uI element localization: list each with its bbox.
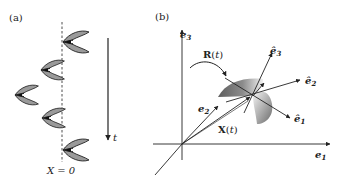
rotation-label: R(t): [203, 49, 223, 60]
swimmer-3: [15, 85, 38, 105]
panel-b-label: (b): [155, 11, 169, 22]
panel-b: (b) e1 e3 e2 X(t) R(t) ê3 ê2 ê1: [153, 11, 330, 175]
swimmer-2: [41, 60, 64, 80]
x-zero-label: X = 0: [46, 165, 76, 176]
rotation-arrow: [190, 62, 226, 76]
label-e2: e2: [198, 103, 209, 116]
panel-a: (a) t X = 0: [9, 12, 118, 176]
label-hat-e3: ê3: [270, 45, 281, 58]
position-vector: [182, 97, 250, 144]
axis-e2-back: [155, 144, 182, 175]
position-label: X(t): [218, 124, 238, 135]
label-hat-e1: ê1: [294, 113, 305, 126]
label-e1: e1: [315, 149, 326, 162]
time-label: t: [113, 132, 118, 143]
position-vector-2: [182, 101, 248, 144]
panel-a-label: (a): [9, 12, 23, 23]
swimmer-1: [63, 31, 89, 53]
label-hat-e2: ê2: [305, 75, 316, 88]
swimmer-5: [63, 139, 89, 161]
figure: (a) t X = 0 (b) e1 e3 e2 X(t) R(t): [0, 0, 342, 184]
